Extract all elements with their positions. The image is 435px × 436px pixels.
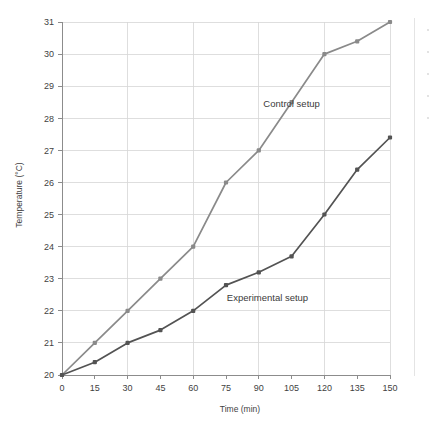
y-tick-label: 26 [44,178,54,188]
y-axis-title: Temperature (°C) [14,162,24,227]
x-tick-label: 150 [382,383,397,393]
data-point-experimental-setup-120 [322,212,326,216]
y-tick-label: 22 [44,306,54,316]
data-point-control-setup-15 [93,341,97,345]
x-axis-tick-labels: 0153045607590105120135150 [59,383,397,393]
data-point-experimental-setup-0 [60,373,64,377]
x-tick-label: 0 [59,383,64,393]
y-tick-label: 24 [44,242,54,252]
data-point-control-setup-150 [388,20,392,24]
horizontal-gridlines [62,22,390,375]
x-tick-label: 105 [284,383,299,393]
data-point-experimental-setup-150 [388,135,392,139]
data-point-control-setup-75 [224,180,228,184]
y-tick-label: 30 [44,49,54,59]
data-point-experimental-setup-105 [290,254,294,258]
x-tick-label: 30 [123,383,133,393]
series-line-control-setup [62,22,390,375]
y-tick-label: 23 [44,274,54,284]
x-tick-label: 15 [90,383,100,393]
x-tick-label: 45 [155,383,165,393]
x-tick-label: 135 [350,383,365,393]
x-axis-ticks [62,375,390,379]
page-edge-marks [415,18,430,376]
y-axis-tick-labels: 202122232425262728293031 [44,17,54,380]
x-tick-label: 75 [221,383,231,393]
chart-axes [62,22,390,375]
y-tick-label: 20 [44,370,54,380]
y-tick-label: 31 [44,17,54,27]
data-point-control-setup-30 [126,309,130,313]
x-tick-label: 120 [317,383,332,393]
y-axis-ticks [58,22,62,375]
data-series-layer [62,22,390,375]
data-point-experimental-setup-75 [224,283,228,287]
y-tick-label: 28 [44,114,54,124]
series-annotation-experimental-setup: Experimental setup [227,292,308,303]
data-point-control-setup-60 [191,245,195,249]
y-tick-label: 21 [44,338,54,348]
y-tick-label: 27 [44,146,54,156]
chart-canvas: 202122232425262728293031 015304560759010… [0,0,435,436]
y-tick-label: 25 [44,210,54,220]
data-point-experimental-setup-15 [93,360,97,364]
series-annotation-control-setup: Control setup [263,98,320,109]
data-point-control-setup-90 [257,148,261,152]
series-line-experimental-setup [62,138,390,376]
data-point-experimental-setup-60 [191,309,195,313]
x-tick-label: 90 [254,383,264,393]
data-point-experimental-setup-135 [355,168,359,172]
data-point-experimental-setup-30 [126,341,130,345]
x-axis-title: Time (min) [220,404,260,414]
temperature-vs-time-line-chart: 202122232425262728293031 015304560759010… [0,0,435,436]
x-tick-label: 60 [188,383,198,393]
data-point-control-setup-135 [355,39,359,43]
y-tick-label: 29 [44,81,54,91]
vertical-gridlines [128,22,390,375]
data-point-markers [60,20,392,377]
data-point-control-setup-45 [158,277,162,281]
data-point-control-setup-120 [322,52,326,56]
data-point-experimental-setup-90 [257,270,261,274]
data-point-experimental-setup-45 [158,328,162,332]
